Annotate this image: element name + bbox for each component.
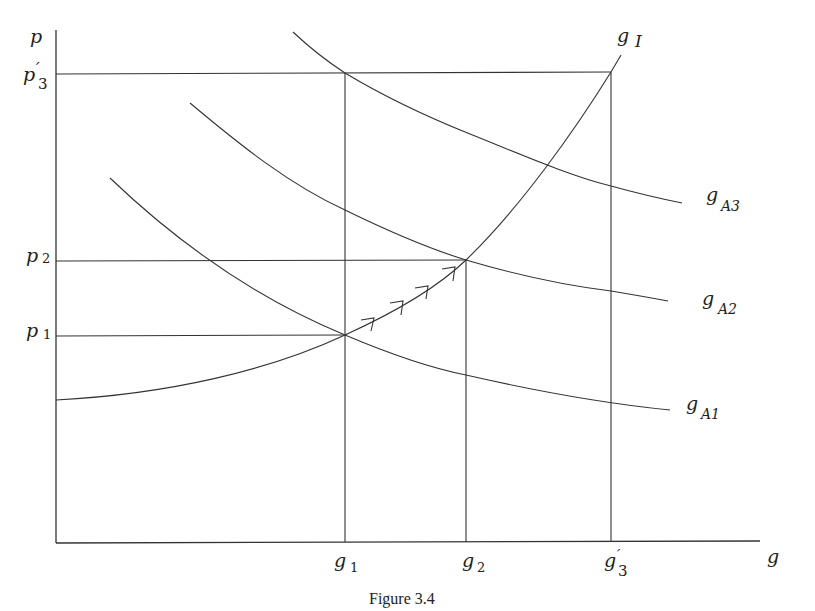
- tick-label-p2: p 2: [26, 244, 50, 266]
- svg-text:g: g: [706, 183, 718, 205]
- quantity-guides: [345, 72, 611, 542]
- svg-text:2: 2: [42, 251, 50, 266]
- svg-text:3: 3: [618, 562, 628, 580]
- p3-guide-line: [56, 72, 611, 74]
- svg-text:A3: A3: [719, 198, 740, 214]
- svg-text:g: g: [617, 24, 629, 46]
- label-gA1: g A1: [686, 392, 720, 422]
- figure-3-4-diagram: p p ′ 3 p 2 p 1 g 1 g 2 g ′ 3 g: [0, 0, 815, 611]
- tick-label-g3: g ′ 3: [604, 546, 628, 580]
- svg-text:g: g: [686, 392, 698, 414]
- svg-text:p: p: [26, 319, 38, 341]
- svg-text:A1: A1: [699, 406, 720, 422]
- svg-text:1: 1: [43, 327, 51, 342]
- curve-gI: [56, 55, 621, 400]
- curves: [56, 32, 682, 410]
- svg-text:p: p: [26, 244, 38, 266]
- label-gA3: g A3: [706, 183, 740, 214]
- svg-text:g: g: [604, 549, 616, 571]
- svg-text:I: I: [634, 31, 642, 51]
- svg-text:1: 1: [350, 560, 358, 575]
- svg-text:A2: A2: [716, 301, 737, 317]
- x-axis-labels: g 1 g 2 g ′ 3 g: [334, 545, 779, 580]
- curve-gA1: [110, 178, 670, 410]
- curve-gA2: [190, 103, 668, 301]
- svg-text:g: g: [702, 287, 714, 309]
- svg-text:p: p: [23, 63, 35, 85]
- tick-label-g1: g 1: [334, 549, 358, 575]
- svg-text:3: 3: [38, 75, 48, 93]
- label-gA2: g A2: [702, 287, 737, 317]
- x-axis-label: g: [767, 545, 779, 567]
- y-axis-label: p: [30, 25, 42, 47]
- tick-label-p3: p ′ 3: [23, 59, 48, 93]
- figure-caption: Figure 3.4: [369, 590, 435, 608]
- tick-label-g2: g 2: [462, 549, 485, 575]
- adjustment-arrows: [361, 267, 455, 331]
- p2-guide-line: [56, 260, 466, 261]
- p1-guide-line: [56, 335, 345, 336]
- x-axis: [56, 541, 760, 543]
- svg-text:g: g: [334, 549, 346, 571]
- curve-gA3: [293, 32, 682, 203]
- svg-text:2: 2: [477, 560, 485, 575]
- arrow-icon: [390, 301, 403, 315]
- curve-labels: g I g A3 g A2 g A1: [617, 24, 740, 422]
- svg-text:g: g: [462, 549, 474, 571]
- y-axis-labels: p p ′ 3 p 2 p 1: [23, 25, 51, 342]
- label-gI: g I: [617, 24, 642, 51]
- tick-label-p1: p 1: [26, 319, 51, 342]
